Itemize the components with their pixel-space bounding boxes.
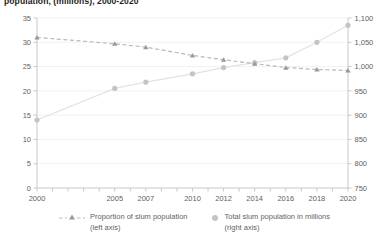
chart-plot-area: 05101520253035 7508008509009501,0001,050… (0, 0, 389, 210)
data-point-total (283, 55, 288, 60)
svg-text:2000: 2000 (29, 194, 46, 203)
data-point-total (34, 117, 39, 122)
svg-text:950: 950 (355, 87, 368, 96)
svg-text:2014: 2014 (246, 194, 263, 203)
left-axis: 05101520253035 (23, 14, 37, 193)
data-point-total (314, 40, 319, 45)
svg-text:750: 750 (355, 184, 368, 193)
legend-label-proportion-line2: (left axis) (90, 223, 120, 232)
svg-text:1,100: 1,100 (355, 14, 374, 23)
dual-axis-line-chart: 05101520253035 7508008509009501,0001,050… (0, 0, 389, 210)
svg-text:2007: 2007 (138, 194, 155, 203)
svg-text:2018: 2018 (309, 194, 326, 203)
dot-marker-icon (210, 213, 220, 223)
svg-text:900: 900 (355, 111, 368, 120)
svg-text:2010: 2010 (184, 194, 201, 203)
data-point-total (190, 71, 195, 76)
gridlines (37, 18, 348, 164)
svg-text:1,050: 1,050 (355, 38, 374, 47)
svg-text:0: 0 (27, 184, 31, 193)
svg-text:5: 5 (27, 159, 31, 168)
data-point-total (345, 23, 350, 28)
legend-label-proportion: Proportion of slum population (left axis… (90, 212, 188, 233)
svg-text:2005: 2005 (106, 194, 123, 203)
svg-text:20: 20 (23, 87, 31, 96)
legend-item-total: Total slum population in millions (right… (210, 212, 330, 233)
svg-text:800: 800 (355, 159, 368, 168)
dashed-line-triangle-marker-icon (59, 213, 85, 223)
legend-item-proportion: Proportion of slum population (left axis… (59, 212, 188, 233)
svg-text:30: 30 (23, 38, 31, 47)
svg-text:1,000: 1,000 (355, 62, 374, 71)
svg-text:2016: 2016 (277, 194, 294, 203)
svg-text:2020: 2020 (340, 194, 357, 203)
svg-text:850: 850 (355, 135, 368, 144)
data-point-total (143, 80, 148, 85)
series-total-slum-population (34, 23, 350, 123)
legend-label-total-line2: (right axis) (225, 223, 260, 232)
legend-label-total-line1: Total slum population in millions (225, 212, 330, 221)
chart-legend: Proportion of slum population (left axis… (0, 212, 389, 247)
data-point-total (221, 65, 226, 70)
svg-text:15: 15 (23, 111, 31, 120)
svg-text:25: 25 (23, 62, 31, 71)
data-point-total (112, 86, 117, 91)
svg-text:10: 10 (23, 135, 31, 144)
x-axis: 200020052007201020122014201620182020 (29, 188, 357, 203)
legend-label-proportion-line1: Proportion of slum population (90, 212, 188, 221)
svg-text:35: 35 (23, 14, 31, 23)
legend-label-total: Total slum population in millions (right… (225, 212, 330, 233)
svg-text:2012: 2012 (215, 194, 232, 203)
right-axis: 7508008509009501,0001,0501,100 (348, 14, 373, 193)
